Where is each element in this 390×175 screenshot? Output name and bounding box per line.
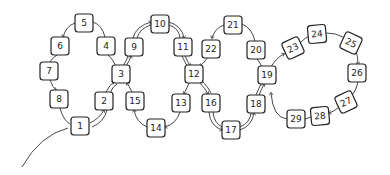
node-13: 13 <box>172 94 190 112</box>
node-9: 9 <box>125 38 143 56</box>
edge-28-29 <box>305 117 311 119</box>
node-label: 1 <box>77 121 83 131</box>
node-label: 21 <box>227 20 238 30</box>
node-17: 17 <box>222 121 240 139</box>
node-18: 18 <box>247 95 265 113</box>
edge-1-2-second <box>92 110 107 127</box>
node-label: 7 <box>46 66 52 76</box>
node-8: 8 <box>50 90 68 108</box>
node-label: 19 <box>261 70 273 80</box>
entry-edge <box>22 128 68 167</box>
node-label: 11 <box>177 42 188 52</box>
node-29: 29 <box>287 110 305 128</box>
edge-27-28 <box>329 108 338 113</box>
node-1: 1 <box>71 117 89 135</box>
node-19: 19 <box>258 66 276 84</box>
node-21: 21 <box>224 16 242 34</box>
node-23: 23 <box>281 36 305 60</box>
edge-3-4 <box>108 55 116 66</box>
node-label: 18 <box>250 99 262 109</box>
node-7: 7 <box>40 62 58 80</box>
node-16: 16 <box>202 94 220 112</box>
node-15: 15 <box>126 92 144 110</box>
edge-20-21 <box>242 24 255 41</box>
node-27: 27 <box>334 90 358 114</box>
loop-diagram: 1234567891011121314151617181920212223242… <box>0 0 390 175</box>
node-26: 26 <box>348 64 366 82</box>
edge-12-16 <box>200 83 208 94</box>
node-label: 15 <box>129 96 140 106</box>
node-label: 4 <box>103 41 109 51</box>
edge-18-19-second <box>256 84 261 95</box>
node-label: 12 <box>188 69 199 79</box>
node-label: 28 <box>314 110 327 121</box>
edge-15-3 <box>127 83 132 92</box>
edge-9-10-second <box>137 25 151 38</box>
node-label: 26 <box>351 68 363 78</box>
node-label: 14 <box>150 123 162 133</box>
node-label: 29 <box>290 114 302 124</box>
node-11: 11 <box>174 38 192 56</box>
edge-24-25 <box>326 33 343 37</box>
node-3: 3 <box>112 65 130 83</box>
node-label: 20 <box>250 45 262 55</box>
node-20: 20 <box>247 41 265 59</box>
node-label: 16 <box>205 98 217 108</box>
node-label: 17 <box>225 125 236 135</box>
edge-19-23 <box>271 54 284 67</box>
edge-17-18 <box>240 113 254 130</box>
node-25: 25 <box>339 31 363 55</box>
node-6: 6 <box>51 37 69 55</box>
node-2: 2 <box>95 92 113 110</box>
node-12: 12 <box>185 65 203 83</box>
node-4: 4 <box>97 37 115 55</box>
edge-1-2 <box>90 110 104 123</box>
edge-8-1 <box>60 108 70 124</box>
node-5: 5 <box>75 14 93 32</box>
node-label: 2 <box>101 96 107 106</box>
edge-4-5 <box>93 22 105 37</box>
node-22: 22 <box>202 40 220 58</box>
node-label: 5 <box>81 18 87 28</box>
node-label: 24 <box>311 28 324 39</box>
edge-29-19 <box>271 93 287 119</box>
node-label: 10 <box>154 19 166 29</box>
node-label: 13 <box>175 98 186 108</box>
node-24: 24 <box>307 24 327 44</box>
edge-21-22 <box>212 25 224 38</box>
edge-14-15 <box>134 110 147 127</box>
node-28: 28 <box>310 106 330 126</box>
node-label: 3 <box>118 69 124 79</box>
node-14: 14 <box>147 119 165 137</box>
node-10: 10 <box>151 15 169 33</box>
node-label: 9 <box>131 42 137 52</box>
edge-7-8 <box>50 80 56 90</box>
nodes-layer: 1234567891011121314151617181920212223242… <box>40 14 366 139</box>
edge-13-14 <box>165 112 180 127</box>
edge-12-13 <box>184 83 189 94</box>
edge-17-18-second <box>240 113 251 127</box>
edge-2-3 <box>106 82 114 92</box>
edge-6-7 <box>50 55 57 62</box>
edge-26-27 <box>353 82 358 94</box>
edge-5-6 <box>63 23 75 37</box>
node-label: 8 <box>56 94 62 104</box>
node-label: 22 <box>205 44 216 54</box>
node-label: 6 <box>57 41 63 51</box>
